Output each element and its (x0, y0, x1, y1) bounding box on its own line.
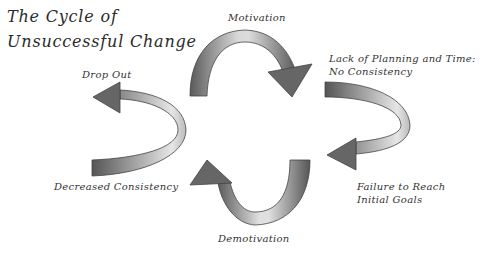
arrow-lack-of-planning (325, 82, 410, 170)
arrow-demotivation (190, 160, 310, 225)
arrow-motivation (190, 30, 312, 97)
arrow-drop-out (92, 82, 186, 176)
cycle-arrows (0, 0, 484, 258)
